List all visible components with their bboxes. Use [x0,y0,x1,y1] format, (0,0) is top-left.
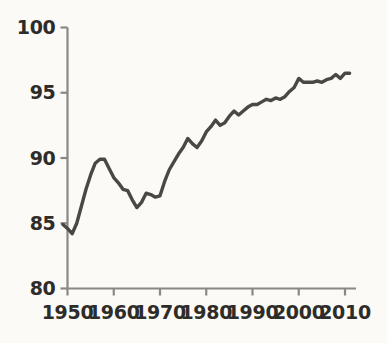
data-line-series-1 [63,73,350,234]
y-tick-label: 100 [17,18,56,37]
x-tick-label: 1980 [180,303,232,322]
x-tick-label: 2010 [319,303,371,322]
x-tick-label: 2000 [273,303,325,322]
x-tick-label: 1990 [227,303,279,322]
line-chart-plot [0,0,387,343]
x-tick-label: 1960 [88,303,140,322]
x-tick-label: 1950 [42,303,94,322]
chart-figure: 80859095100 1950196019701980199020002010 [0,0,387,343]
x-tick-label: 1970 [134,303,186,322]
y-tick-label: 80 [30,279,56,298]
y-tick-label: 85 [30,214,56,233]
y-tick-label: 90 [30,149,56,168]
data-series-group [63,73,350,234]
axis-group [68,28,357,289]
y-tick-label: 95 [30,83,56,102]
